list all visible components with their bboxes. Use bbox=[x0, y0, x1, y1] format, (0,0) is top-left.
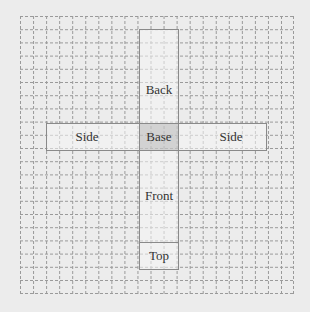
cube-net-diagram: Back Side Base Side Front Top bbox=[0, 0, 310, 312]
label-side-left: Side bbox=[75, 129, 98, 145]
label-back: Back bbox=[146, 82, 173, 98]
label-top: Top bbox=[149, 248, 169, 264]
face-back bbox=[139, 29, 179, 124]
label-base: Base bbox=[146, 129, 171, 145]
label-side-right: Side bbox=[219, 129, 242, 145]
label-front: Front bbox=[145, 188, 173, 204]
